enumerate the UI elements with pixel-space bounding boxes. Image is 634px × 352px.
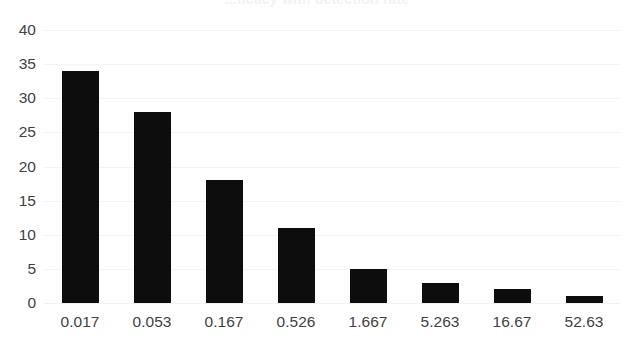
bar: [206, 180, 243, 303]
x-tick-label: 0.053: [117, 311, 187, 333]
bar: [494, 289, 531, 303]
x-tick-label: 52.63: [549, 311, 619, 333]
bar: [134, 112, 171, 303]
y-tick-label: 15: [0, 193, 36, 209]
bar: [422, 283, 459, 303]
y-tick-label: 20: [0, 159, 36, 175]
x-tick-label: 5.263: [405, 311, 475, 333]
x-tick-label: 1.667: [333, 311, 403, 333]
x-tick-label: 0.526: [261, 311, 331, 333]
bar: [350, 269, 387, 303]
bar: [278, 228, 315, 303]
y-tick-label: 0: [0, 295, 36, 311]
bar: [566, 296, 603, 303]
x-axis: 0.0170.0530.1670.5261.6675.26316.6752.63: [44, 311, 620, 341]
x-tick-label: 0.167: [189, 311, 259, 333]
chart-title: ...ficacy with detection rate: [0, 0, 634, 7]
x-tick-label: 16.67: [477, 311, 547, 333]
x-tick-label: 0.017: [45, 311, 115, 333]
y-tick-label: 40: [0, 22, 36, 38]
gridline: [44, 303, 620, 304]
bar: [62, 71, 99, 303]
y-tick-label: 35: [0, 56, 36, 72]
bar-chart: ...ficacy with detection rate 0510152025…: [0, 0, 634, 352]
y-tick-label: 5: [0, 261, 36, 277]
y-tick-label: 25: [0, 124, 36, 140]
y-axis: 0510152025303540: [0, 0, 36, 352]
bars-layer: [44, 30, 620, 303]
y-tick-label: 10: [0, 227, 36, 243]
y-tick-label: 30: [0, 90, 36, 106]
